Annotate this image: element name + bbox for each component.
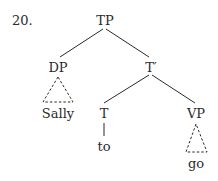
leaf-go: go [188,157,204,170]
leaf-to: to [97,140,110,153]
leaf-sally: Sally [42,107,74,120]
node-vp: VP [187,107,205,120]
example-number: 20. [12,14,33,27]
node-t: T [100,107,109,120]
branch-tbar-t [104,75,149,103]
node-tp: TP [96,14,113,27]
vp-dashed-triangle [186,124,207,152]
node-t-bar: T′ [145,61,157,74]
dp-dashed-triangle [43,77,73,102]
branch-tbar-vp [152,75,195,103]
branch-tp-dp [60,29,103,57]
node-dp: DP [48,61,67,74]
branch-tp-tbar [106,29,149,57]
syntax-tree-diagram: 20. TP DP T′ Sally T VP to go [0,0,218,181]
